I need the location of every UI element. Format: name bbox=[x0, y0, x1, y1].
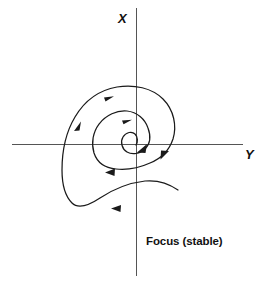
axis-label-x: X bbox=[118, 12, 127, 25]
arrow-left-outer-icon bbox=[74, 122, 81, 132]
phase-portrait-figure: X Y Focus (stable) bbox=[0, 0, 266, 283]
arrow-right-outer-icon bbox=[161, 151, 170, 160]
phase-portrait-canvas bbox=[0, 0, 266, 283]
arrow-upper-outer-icon bbox=[104, 96, 114, 101]
arrow-lower-outer-icon bbox=[111, 205, 121, 212]
axis-label-y: Y bbox=[245, 148, 254, 161]
arrow-upper-inner-icon bbox=[122, 120, 132, 124]
arrow-center-icon bbox=[137, 144, 147, 153]
spiral-trajectory-path bbox=[62, 86, 178, 206]
arrow-lower-inner-icon bbox=[105, 169, 115, 177]
figure-caption: Focus (stable) bbox=[146, 235, 223, 247]
